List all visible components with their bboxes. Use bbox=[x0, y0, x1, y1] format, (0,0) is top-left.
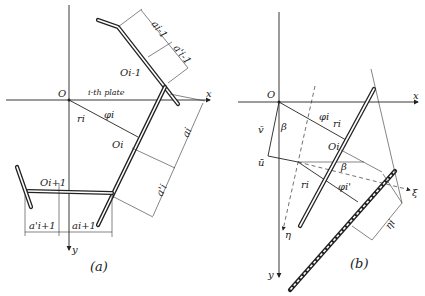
point-next-label: Oi+1 bbox=[40, 177, 66, 188]
point-prev-label: Oi-1 bbox=[120, 67, 141, 78]
xi-label: ξ bbox=[412, 187, 418, 198]
angle-label-b: φi bbox=[319, 111, 329, 122]
point-i-label-b: Oi bbox=[328, 141, 339, 152]
dim-a-prime-next-label: a'i+1 bbox=[29, 220, 56, 231]
x-label-a: x bbox=[206, 88, 212, 99]
radius-label-a: ri bbox=[77, 113, 85, 124]
caption-b: (b) bbox=[350, 256, 368, 271]
plate-i bbox=[98, 87, 165, 225]
diagram-a: O x y i-th plate φi ri Oi-1 Oi Oi+1 ai-1… bbox=[6, 5, 212, 274]
dim-a-i-label: ai bbox=[180, 126, 194, 139]
angle2-label: φi' bbox=[338, 181, 351, 192]
origin-label-a: O bbox=[58, 88, 66, 99]
diagram-b: O x y φi ri Oi v̄ ū β β ri φi' ξ η ηi (b… bbox=[238, 12, 419, 290]
beta2-label: β bbox=[340, 161, 347, 172]
radius2-label: ri bbox=[301, 179, 309, 190]
x-label-b: x bbox=[413, 90, 419, 101]
radius-label-b: ri bbox=[333, 118, 341, 129]
origin-label-b: O bbox=[267, 89, 275, 100]
y-label-a: y bbox=[71, 244, 78, 255]
caption-a: (a) bbox=[90, 259, 108, 274]
angle-label-a: φi bbox=[104, 109, 114, 120]
eta-label: η bbox=[285, 229, 291, 240]
point-i-label: Oi bbox=[112, 139, 123, 150]
diagram-canvas: O x y i-th plate φi ri Oi-1 Oi Oi+1 ai-1… bbox=[0, 0, 425, 296]
v-vector-label: v̄ bbox=[258, 124, 264, 135]
dim-a-next-label: ai+1 bbox=[72, 220, 96, 231]
eta-i-label: ηi bbox=[383, 217, 397, 231]
dim-a-prev-label: ai-1 bbox=[149, 18, 169, 40]
y-label-b: y bbox=[267, 269, 274, 280]
plate-label: i-th plate bbox=[88, 88, 125, 97]
u-vector-label: ū bbox=[258, 157, 264, 168]
beta-label: β bbox=[280, 121, 287, 132]
dim-a-prime-prev-label: a'i-1 bbox=[171, 42, 193, 66]
